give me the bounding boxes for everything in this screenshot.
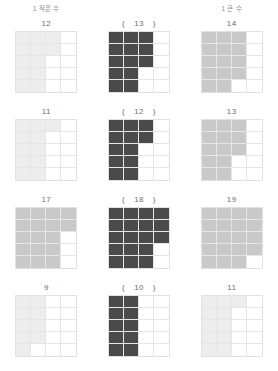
grid-cell-empty[interactable] [154, 296, 169, 308]
grid-cell-filled[interactable] [31, 120, 46, 132]
grid-cell-empty[interactable] [154, 156, 169, 168]
grid-cell-empty[interactable] [247, 68, 262, 80]
grid-cell-empty[interactable] [247, 80, 262, 92]
grid-cell-empty[interactable] [61, 132, 76, 144]
grid-cell-filled[interactable] [217, 220, 232, 232]
grid-cell-filled[interactable] [124, 320, 139, 332]
grid-cell-empty[interactable] [247, 56, 262, 68]
grid-cell-filled[interactable] [217, 344, 232, 356]
grid-cell-empty[interactable] [247, 144, 262, 156]
grid-cell-filled[interactable] [109, 344, 124, 356]
grid-cell-empty[interactable] [154, 56, 169, 68]
grid-cell-filled[interactable] [109, 132, 124, 144]
grid-cell-filled[interactable] [217, 156, 232, 168]
grid-cell-empty[interactable] [154, 344, 169, 356]
grid-cell-filled[interactable] [217, 296, 232, 308]
grid-cell-empty[interactable] [232, 168, 247, 180]
grid-cell-filled[interactable] [46, 244, 61, 256]
grid-cell-filled[interactable] [202, 308, 217, 320]
grid-cell-filled[interactable] [202, 44, 217, 56]
grid-cell-empty[interactable] [61, 232, 76, 244]
grid-cell-filled[interactable] [16, 332, 31, 344]
number-label-center[interactable]: (18) [122, 192, 156, 207]
number-label-center[interactable]: (13) [122, 16, 156, 31]
grid-cell-filled[interactable] [139, 44, 154, 56]
grid-cell-filled[interactable] [202, 56, 217, 68]
grid-cell-empty[interactable] [46, 80, 61, 92]
grid-cell-filled[interactable] [154, 232, 169, 244]
grid-cell-filled[interactable] [139, 120, 154, 132]
grid-cell-empty[interactable] [46, 332, 61, 344]
grid-cell-empty[interactable] [139, 344, 154, 356]
grid-cell-empty[interactable] [46, 320, 61, 332]
grid-cell-empty[interactable] [154, 120, 169, 132]
grid-cell-filled[interactable] [202, 32, 217, 44]
grid-cell-filled[interactable] [31, 220, 46, 232]
grid-cell-filled[interactable] [16, 68, 31, 80]
grid-cell-empty[interactable] [46, 308, 61, 320]
grid-cell-filled[interactable] [46, 208, 61, 220]
grid-cell-filled[interactable] [217, 32, 232, 44]
grid-cell-empty[interactable] [154, 44, 169, 56]
grid-cell-filled[interactable] [109, 80, 124, 92]
grid-cell-filled[interactable] [139, 220, 154, 232]
grid-cell-empty[interactable] [61, 344, 76, 356]
grid-cell-empty[interactable] [61, 256, 76, 268]
grid-cell-filled[interactable] [16, 232, 31, 244]
grid-cell-filled[interactable] [139, 244, 154, 256]
grid-cell-filled[interactable] [109, 308, 124, 320]
grid-cell-empty[interactable] [232, 308, 247, 320]
grid-cell-filled[interactable] [46, 256, 61, 268]
grid-cell-filled[interactable] [31, 132, 46, 144]
grid-cell-filled[interactable] [232, 32, 247, 44]
grid-cell-filled[interactable] [202, 220, 217, 232]
grid-cell-filled[interactable] [124, 120, 139, 132]
grid-cell-empty[interactable] [154, 308, 169, 320]
grid-cell-empty[interactable] [247, 132, 262, 144]
grid-cell-filled[interactable] [31, 308, 46, 320]
grid-cell-empty[interactable] [154, 144, 169, 156]
grid-cell-empty[interactable] [61, 120, 76, 132]
grid-cell-filled[interactable] [202, 344, 217, 356]
grid-cell-filled[interactable] [217, 56, 232, 68]
grid-cell-empty[interactable] [61, 332, 76, 344]
grid-cell-filled[interactable] [61, 220, 76, 232]
grid-cell-filled[interactable] [31, 68, 46, 80]
grid-cell-filled[interactable] [16, 144, 31, 156]
grid-cell-empty[interactable] [61, 56, 76, 68]
grid-cell-filled[interactable] [232, 44, 247, 56]
grid-cell-filled[interactable] [124, 208, 139, 220]
grid-cell-empty[interactable] [61, 80, 76, 92]
grid-cell-filled[interactable] [46, 44, 61, 56]
grid-cell-empty[interactable] [61, 156, 76, 168]
grid-cell-filled[interactable] [31, 44, 46, 56]
grid-cell-filled[interactable] [109, 144, 124, 156]
grid-cell-filled[interactable] [124, 44, 139, 56]
grid-cell-empty[interactable] [232, 80, 247, 92]
grid-cell-empty[interactable] [154, 68, 169, 80]
grid-cell-empty[interactable] [154, 320, 169, 332]
grid-cell-empty[interactable] [61, 320, 76, 332]
grid-cell-filled[interactable] [202, 120, 217, 132]
grid-cell-empty[interactable] [61, 32, 76, 44]
grid-cell-empty[interactable] [247, 320, 262, 332]
grid-cell-filled[interactable] [124, 296, 139, 308]
grid-cell-filled[interactable] [109, 68, 124, 80]
grid-cell-filled[interactable] [16, 32, 31, 44]
grid-cell-filled[interactable] [31, 56, 46, 68]
grid-cell-filled[interactable] [217, 68, 232, 80]
grid-cell-filled[interactable] [124, 68, 139, 80]
grid-cell-filled[interactable] [16, 344, 31, 356]
grid-cell-empty[interactable] [46, 156, 61, 168]
grid-cell-filled[interactable] [61, 208, 76, 220]
grid-cell-empty[interactable] [139, 68, 154, 80]
grid-cell-empty[interactable] [247, 344, 262, 356]
grid-cell-empty[interactable] [232, 320, 247, 332]
grid-cell-filled[interactable] [31, 156, 46, 168]
grid-cell-empty[interactable] [61, 308, 76, 320]
grid-cell-filled[interactable] [232, 68, 247, 80]
grid-cell-filled[interactable] [124, 244, 139, 256]
grid-cell-filled[interactable] [31, 168, 46, 180]
grid-cell-empty[interactable] [154, 244, 169, 256]
grid-cell-filled[interactable] [232, 208, 247, 220]
